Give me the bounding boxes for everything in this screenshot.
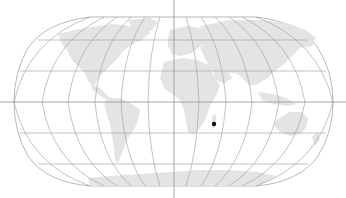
location-marker[interactable] — [212, 122, 216, 126]
world-map[interactable] — [0, 0, 346, 198]
